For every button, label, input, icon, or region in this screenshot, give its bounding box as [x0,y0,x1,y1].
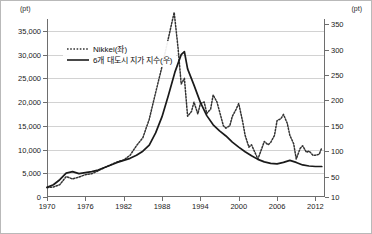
x-tick-label: 1970 [39,202,56,211]
right-tick-mark [325,50,329,51]
legend-label-nikkei: Nikkei(좌) [93,43,127,54]
x-tick-mark [85,197,86,201]
right-tick-label: 200 [331,96,344,105]
x-tick-label: 2000 [230,202,247,211]
left-tick-label: 30,000 [18,50,41,59]
left-tick-label: 25,000 [18,74,41,83]
right-tick-label: 350 [331,20,344,29]
legend-swatch-solid [67,56,89,64]
right-tick-mark [325,100,329,101]
right-tick-mark [325,151,329,152]
series-line-nikkei [47,12,322,187]
right-tick-label: 10 [331,193,339,202]
right-tick-mark [325,126,329,127]
x-tick-label: 1988 [154,202,171,211]
right-tick-label: 100 [331,147,344,156]
left-tick-label: 35,000 [18,26,41,35]
x-tick-label: 1994 [192,202,209,211]
left-tick-label: 10,000 [18,145,41,154]
right-tick-mark [325,197,329,198]
x-tick-mark [47,197,48,201]
x-tick-mark [239,197,240,201]
left-tick-label: 15,000 [18,121,41,130]
right-tick-mark [325,24,329,25]
right-tick-label: 300 [331,45,344,54]
left-tick-label: 0 [37,193,41,202]
chart-figure: (pt) (pt) 05,00010,00015,00020,00025,000… [0,0,372,234]
legend: Nikkei(좌) 6개 대도시 지가 지수(우) [63,41,176,67]
x-tick-mark [277,197,278,201]
legend-label-land-index: 6개 대도시 지가 지수(우) [93,54,172,65]
left-tick-label: 5,000 [22,169,41,178]
right-tick-label: 50 [331,172,339,181]
x-tick-mark [315,197,316,201]
x-tick-label: 1976 [77,202,94,211]
left-axis-unit-label: (pt) [20,5,31,12]
right-tick-mark [325,177,329,178]
right-axis-unit-label: (pt) [352,5,363,12]
x-tick-mark [124,197,125,201]
legend-swatch-dotted [67,45,89,53]
legend-item-land-index: 6개 대도시 지가 지수(우) [67,54,172,65]
right-tick-label: 250 [331,70,344,79]
right-tick-mark [325,75,329,76]
x-tick-label: 2006 [269,202,286,211]
x-tick-mark [162,197,163,201]
x-tick-label: 1982 [115,202,132,211]
x-tick-mark [200,197,201,201]
right-tick-label: 150 [331,121,344,130]
legend-item-nikkei: Nikkei(좌) [67,43,172,54]
left-tick-label: 20,000 [18,98,41,107]
x-tick-label: 2012 [307,202,324,211]
